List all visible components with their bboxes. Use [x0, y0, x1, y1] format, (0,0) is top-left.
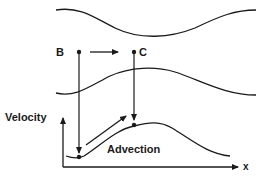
velocity-point-b: [77, 155, 81, 159]
velocity-point-c: [132, 123, 136, 127]
label-b: B: [56, 47, 64, 58]
advection-label: Advection: [107, 144, 160, 155]
x-axis-label: x: [243, 162, 249, 172]
point-c-dot: [132, 50, 136, 54]
label-c: C: [139, 47, 147, 58]
point-b-dot: [77, 50, 81, 54]
upper-wave: [56, 9, 256, 36]
lower-wave: [56, 68, 256, 95]
y-axis-label: Velocity: [5, 112, 47, 123]
